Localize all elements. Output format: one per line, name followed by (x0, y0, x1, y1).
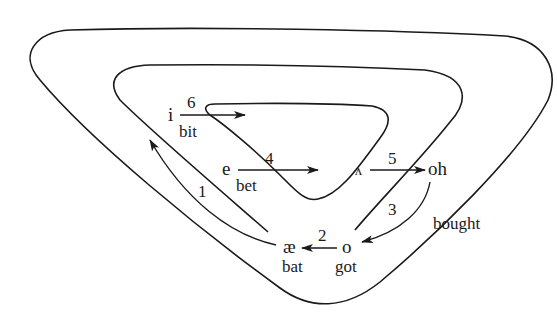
arrow-4-number: 4 (265, 149, 274, 168)
vowel-wedge: ʌ (355, 163, 362, 178)
arrow-2-number: 2 (318, 226, 327, 245)
arrow-5-number: 5 (388, 149, 397, 168)
word-got: got (335, 257, 357, 276)
vowel-oh: oh (428, 158, 448, 179)
word-bit: bit (179, 122, 197, 141)
word-bought: bought (433, 214, 481, 233)
arrow-3-number: 3 (388, 200, 397, 219)
arrow-1 (150, 140, 276, 245)
vowel-shift-diagram: i 6 bit e 4 bet ʌ 5 oh 3 bought o 2 got … (0, 0, 557, 316)
vowel-e: e (222, 158, 230, 179)
vowel-i: i (168, 104, 173, 125)
arrow-1-number: 1 (198, 182, 207, 201)
word-bat: bat (282, 257, 303, 276)
word-bet: bet (236, 176, 257, 195)
inner-loop (206, 103, 388, 199)
arrow-6-number: 6 (187, 93, 196, 112)
middle-loop (114, 65, 462, 232)
vowel-o: o (342, 236, 352, 257)
vowel-ae: æ (283, 236, 296, 257)
